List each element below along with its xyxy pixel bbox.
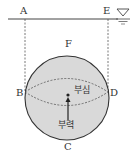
label-e: E bbox=[103, 5, 110, 16]
label-c: C bbox=[64, 141, 72, 152]
center-of-buoyancy-dot bbox=[66, 93, 69, 96]
label-b: B bbox=[16, 87, 23, 98]
label-d: D bbox=[110, 87, 118, 98]
buoyancy-diagram: A E F B D C 부심 부력 bbox=[0, 0, 138, 160]
label-center-of-buoyancy: 부심 bbox=[74, 85, 90, 95]
water-surface-icon bbox=[116, 9, 130, 24]
label-f: F bbox=[65, 38, 72, 49]
label-a: A bbox=[19, 5, 28, 16]
label-buoyancy: 부력 bbox=[58, 119, 74, 130]
